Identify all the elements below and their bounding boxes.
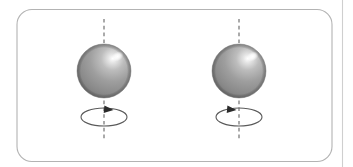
spinning-sphere-group-left <box>77 19 131 141</box>
spinning-sphere-group-right <box>212 19 266 141</box>
figure-canvas <box>0 0 353 167</box>
rounded-panel-border <box>17 10 332 162</box>
rotation-direction-arrowhead-right <box>227 105 237 113</box>
rotation-direction-arrowhead-left <box>104 105 114 113</box>
figure-root <box>0 0 353 167</box>
